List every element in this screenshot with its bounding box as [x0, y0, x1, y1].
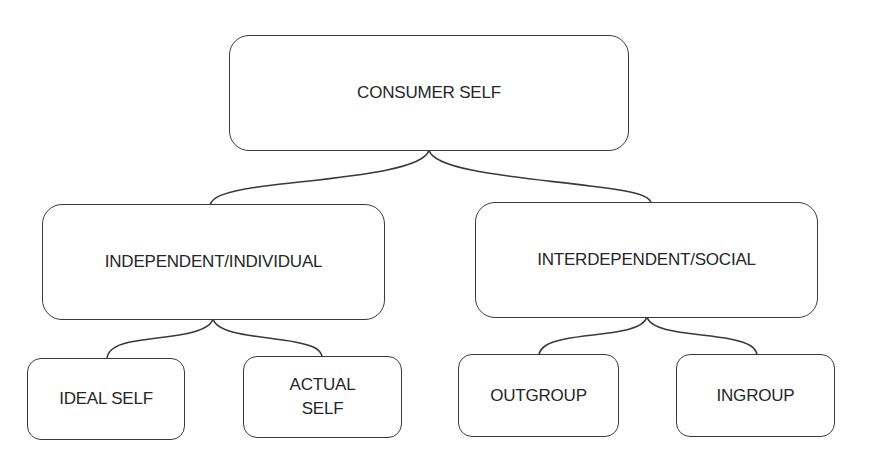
- node-outgroup: OUTGROUP: [458, 354, 619, 437]
- node-consumer-self-label: CONSUMER SELF: [357, 81, 501, 105]
- node-actual-self-label: ACTUAL SELF: [290, 373, 356, 421]
- node-ideal-self-label: IDEAL SELF: [59, 387, 153, 411]
- brace-independent-to-level2: [107, 319, 322, 358]
- node-independent-individual-label: INDEPENDENT/INDIVIDUAL: [105, 250, 323, 274]
- node-ingroup: INGROUP: [676, 354, 835, 437]
- node-ingroup-label: INGROUP: [717, 384, 795, 408]
- consumer-self-hierarchy-diagram: CONSUMER SELF INDEPENDENT/INDIVIDUAL INT…: [0, 0, 871, 464]
- brace-root-to-level1: [210, 150, 651, 205]
- node-outgroup-label: OUTGROUP: [490, 384, 587, 408]
- node-consumer-self: CONSUMER SELF: [229, 35, 629, 151]
- node-interdependent-social: INTERDEPENDENT/SOCIAL: [475, 202, 818, 318]
- node-ideal-self: IDEAL SELF: [27, 358, 185, 440]
- node-actual-self: ACTUAL SELF: [243, 356, 402, 438]
- node-interdependent-social-label: INTERDEPENDENT/SOCIAL: [537, 248, 756, 272]
- node-independent-individual: INDEPENDENT/INDIVIDUAL: [42, 204, 385, 320]
- brace-interdependent-to-level2: [539, 317, 757, 354]
